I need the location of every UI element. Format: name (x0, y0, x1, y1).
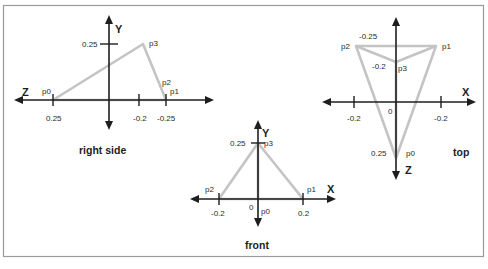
point-label-p1: p1 (170, 87, 179, 96)
tick-label-y-0.25: 0.25 (82, 40, 98, 49)
tick-label-z-neg0.25: -0.25 (359, 32, 378, 41)
top-view: X Z -0.25 -0.2 0 -0.2 -0.2 0.25 p0 p1 p2… (322, 17, 476, 180)
axis-label-y: Y (115, 23, 123, 35)
arrow-right-icon (467, 98, 476, 106)
front-view: Y X 0.25 0 -0.2 0.2 p0 p1 p2 p3 front (190, 120, 336, 251)
point-label-p3: p3 (149, 39, 158, 48)
view-title-front: front (245, 239, 269, 251)
tick-label-x-0.2: 0.2 (298, 209, 310, 218)
tick-label-x-neg0.2: -0.2 (211, 209, 225, 218)
axis-label-z: Z (405, 164, 412, 176)
point-label-p2: p2 (341, 42, 350, 51)
point-label-p1: p1 (307, 185, 316, 194)
axis-label-x: X (327, 183, 335, 195)
diagram-stage: Z Y 0.25 0.25 -0.2 -0.25 p0 p1 p2 p3 rig… (0, 0, 488, 269)
tick-label-x-left: -0.2 (347, 114, 361, 123)
point-label-p3: p3 (264, 139, 273, 148)
projection-diagram: Z Y 0.25 0.25 -0.2 -0.25 p0 p1 p2 p3 rig… (0, 0, 488, 269)
tick-label-x-right: -0.2 (434, 114, 448, 123)
arrow-up-icon (254, 120, 262, 129)
arrow-down-icon (105, 121, 113, 130)
arrow-right-icon (205, 96, 214, 104)
axis-label-y: Y (262, 127, 270, 139)
axis-label-z: Z (22, 86, 29, 98)
right-side-view: Z Y 0.25 0.25 -0.2 -0.25 p0 p1 p2 p3 rig… (14, 15, 214, 156)
arrow-up-icon (105, 15, 113, 24)
point-label-p0: p0 (261, 207, 270, 216)
tick-label-z-neg0.25: -0.25 (157, 114, 176, 123)
arrow-up-icon (392, 17, 400, 26)
tick-label-z-0.25: 0.25 (371, 149, 387, 158)
front-triangle (219, 143, 303, 199)
tick-label-z-0.25: 0.25 (46, 114, 62, 123)
arrow-down-icon (254, 218, 262, 227)
view-title-right-side: right side (79, 144, 126, 156)
tick-label-origin: 0 (249, 203, 254, 212)
point-label-p2: p2 (205, 185, 214, 194)
arrow-right-icon (327, 195, 336, 203)
tick-label-y-0.25: 0.25 (230, 139, 246, 148)
point-label-p1: p1 (442, 42, 451, 51)
tick-label-origin: 0 (388, 107, 393, 116)
axis-label-x: X (462, 86, 470, 98)
view-title-top: top (453, 146, 469, 158)
point-label-p0: p0 (406, 149, 415, 158)
tick-label-z-neg0.2: -0.2 (133, 114, 147, 123)
point-label-p2: p2 (162, 78, 171, 87)
arrow-left-icon (322, 98, 331, 106)
arrow-left-icon (190, 195, 199, 203)
point-label-p3: p3 (398, 64, 407, 73)
diagram-frame (4, 6, 484, 257)
point-label-p0: p0 (42, 87, 51, 96)
tick-label-z-neg0.2: -0.2 (372, 62, 386, 71)
arrow-down-icon (392, 171, 400, 180)
